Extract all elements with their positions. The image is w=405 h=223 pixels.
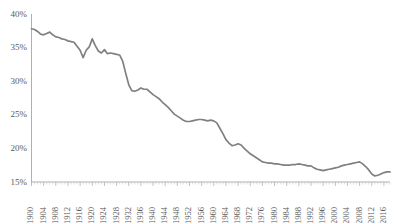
line-chart: 40%35%30%25%20%15% 190019041908191219161… [0,0,405,223]
y-axis-tick-label: 35% [11,42,28,52]
x-axis-tick-label: 2000 [329,207,339,223]
x-axis-tick-label: 1932 [123,207,133,223]
x-axis-tick-label: 1996 [317,207,327,223]
x-axis-tick-label: 1984 [281,206,291,223]
series-line [32,29,391,176]
y-axis-tick-label: 30% [11,76,28,86]
x-axis-tick-label: 1992 [305,207,315,223]
x-axis-tick-label: 1976 [256,207,266,223]
x-axis-tick-label: 1924 [98,206,108,223]
x-axis-tick-label: 1912 [62,207,72,223]
x-axis-tick-label: 2012 [366,207,376,223]
y-axis-labels: 40%35%30%25%20%15% [11,9,28,187]
x-axis-tick-label: 1904 [38,206,48,223]
x-axis-tick-label: 1940 [147,207,157,223]
chart-canvas: 40%35%30%25%20%15% 190019041908191219161… [0,0,405,223]
x-axis-tick-label: 1928 [111,207,121,223]
gridlines [32,14,391,148]
x-axis-tick-label: 1964 [220,206,230,223]
x-axis-ticks [32,182,391,186]
x-axis-labels: 1900190419081912191619201924192819321936… [25,206,387,223]
axis-lines [32,14,391,182]
x-axis-tick-label: 1980 [269,207,279,223]
y-axis-tick-label: 25% [11,109,28,119]
x-axis-tick-label: 1916 [74,207,84,223]
x-axis-tick-label: 1952 [183,207,193,223]
x-axis-tick-label: 1948 [171,207,181,223]
x-axis-tick-label: 2004 [341,206,351,223]
y-axis-tick-label: 40% [11,9,28,19]
x-axis-tick-label: 1944 [159,206,169,223]
y-axis-tick-label: 20% [11,143,28,153]
x-axis-tick-label: 1968 [232,207,242,223]
x-axis-tick-label: 1972 [244,207,254,223]
x-axis-tick-label: 1936 [135,207,145,223]
x-axis-tick-label: 1900 [25,207,35,223]
y-axis-tick-label: 15% [11,177,28,187]
x-axis-tick-label: 2016 [378,207,388,223]
x-axis-tick-label: 2008 [354,207,364,223]
x-axis-tick-label: 1956 [196,207,206,223]
x-axis-tick-label: 1988 [293,207,303,223]
x-axis-tick-label: 1908 [50,207,60,223]
x-axis-tick-label: 1960 [208,207,218,223]
data-series [32,29,391,176]
x-axis-tick-label: 1920 [86,207,96,223]
